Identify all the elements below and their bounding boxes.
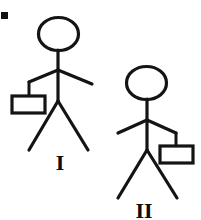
figure-1-bag [12,96,45,113]
corner-mark-square [1,12,8,19]
figure-1-label: I [56,150,65,175]
figure-2-label: II [135,198,152,220]
diagram-canvas: I II [0,0,201,220]
stick-figure-diagram: I II [0,0,201,220]
figure-2-bag [160,146,193,163]
